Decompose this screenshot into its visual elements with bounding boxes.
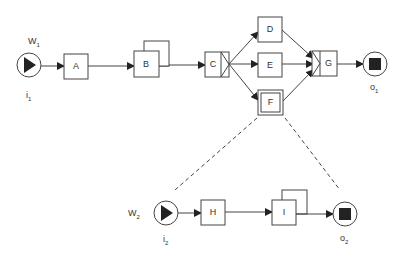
task-b-label: B	[143, 59, 149, 69]
task-a[interactable]: A	[64, 54, 88, 79]
task-h-label: H	[210, 207, 217, 217]
stop-icon	[369, 58, 381, 70]
task-d-label: D	[267, 24, 274, 34]
task-e[interactable]: E	[258, 53, 282, 77]
task-a-label: A	[73, 61, 79, 71]
task-c[interactable]: C	[205, 52, 229, 77]
task-e-label: E	[267, 60, 273, 70]
task-b[interactable]: B	[134, 41, 169, 77]
task-i-label: I	[283, 207, 286, 217]
edge-c-d	[229, 32, 258, 64]
input-label-i2: i2	[163, 234, 169, 246]
task-g-label: G	[325, 58, 332, 68]
task-f[interactable]: F	[258, 90, 283, 115]
decomposition-line-right	[285, 118, 340, 190]
input-label-i1: i1	[26, 90, 32, 102]
stop-icon	[339, 208, 351, 220]
edge-f-g	[283, 70, 313, 101]
task-i[interactable]: I	[272, 190, 307, 225]
input-condition-i2[interactable]	[154, 201, 178, 225]
output-label-o2: o2	[340, 233, 349, 245]
task-d[interactable]: D	[258, 17, 282, 42]
decomposition-line-left	[175, 118, 257, 190]
edge-c-f	[229, 64, 258, 100]
task-h[interactable]: H	[201, 200, 225, 225]
output-label-o1: o1	[370, 82, 379, 94]
edge-d-g	[282, 30, 313, 58]
output-condition-o2[interactable]	[333, 202, 357, 226]
workflow-label-w2: W2	[128, 208, 141, 220]
task-g[interactable]: G	[312, 51, 337, 76]
workflow-label-w1: W1	[28, 36, 41, 48]
task-c-label: C	[210, 59, 217, 69]
task-f-label: F	[268, 97, 274, 107]
workflow-diagram: W1 i1 A B C D E F	[0, 0, 400, 257]
output-condition-o1[interactable]	[363, 52, 387, 76]
input-condition-i1[interactable]	[17, 53, 41, 77]
